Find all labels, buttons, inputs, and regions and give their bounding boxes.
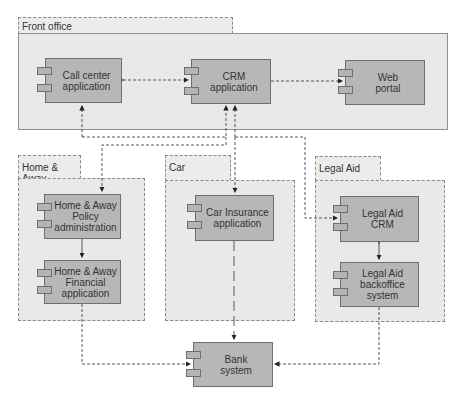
group-tab-home-away: Home & Away [18, 155, 81, 179]
port-icon [186, 369, 201, 377]
group-label-legal-aid: Legal Aid [319, 163, 360, 174]
group-tab-car: Car [165, 155, 231, 181]
group-label-car: Car [169, 162, 185, 173]
component-ha-financial[interactable]: Home & Away Financial application [44, 260, 121, 304]
port-icon [333, 271, 348, 279]
port-icon [187, 221, 202, 229]
component-bank-system[interactable]: Bank system [193, 342, 273, 387]
port-icon [37, 286, 52, 294]
component-legal-aid-backoffice[interactable]: Legal Aid backoffice system [340, 262, 419, 307]
group-tab-front-office: Front office [18, 17, 233, 34]
port-icon [37, 203, 52, 211]
port-icon [333, 223, 348, 231]
port-icon [184, 87, 199, 95]
component-label: Home & Away Policy administration [48, 200, 117, 233]
component-ha-policy[interactable]: Home & Away Policy administration [44, 194, 121, 239]
component-label: Web portal [369, 72, 400, 94]
component-label: Bank system [214, 354, 252, 376]
port-icon [37, 67, 52, 75]
port-icon [338, 86, 353, 94]
component-label: Legal Aid backoffice system [354, 268, 405, 301]
port-icon [37, 269, 52, 277]
component-legal-aid-crm[interactable]: Legal Aid CRM [340, 196, 419, 242]
component-crm[interactable]: CRM application [191, 59, 271, 104]
port-icon [187, 204, 202, 212]
port-icon [37, 220, 52, 228]
port-icon [37, 84, 52, 92]
port-icon [186, 351, 201, 359]
component-label: CRM application [192, 71, 270, 93]
component-label: Legal Aid CRM [356, 208, 403, 230]
component-call-center[interactable]: Call center application [45, 58, 122, 103]
port-icon [338, 69, 353, 77]
component-label: Home & Away Financial application [48, 266, 117, 299]
port-icon [333, 288, 348, 296]
port-icon [184, 67, 199, 75]
group-label-front-office: Front office [22, 21, 72, 32]
component-web-portal[interactable]: Web portal [345, 60, 425, 105]
component-car-insurance[interactable]: Car Insurance application [195, 195, 274, 241]
port-icon [333, 205, 348, 213]
component-label: Car Insurance application [200, 207, 269, 229]
component-label: Call center application [57, 70, 111, 92]
group-tab-legal-aid: Legal Aid [315, 156, 381, 181]
